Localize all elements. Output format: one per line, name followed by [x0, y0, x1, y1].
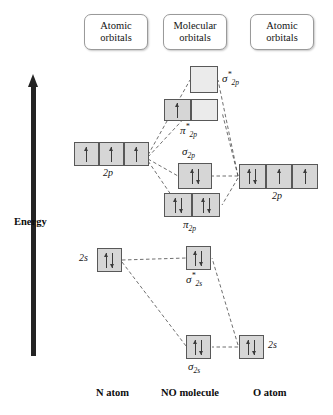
spin-slot-n-2p-c	[125, 143, 148, 165]
electron-arrow-up	[190, 169, 195, 184]
orbital-box-o-2p-b	[266, 164, 292, 189]
spin-slot-o-2s	[240, 336, 263, 358]
spin-slot-pi-2p-b	[193, 194, 219, 216]
electron-arrow-up	[303, 169, 308, 184]
header-left-atomic-orbitals: Atomic orbitals	[84, 14, 148, 50]
electron-arrow-up	[193, 251, 198, 266]
header-left-line1: Atomic	[100, 20, 132, 32]
orbital-box-o-2s	[239, 335, 264, 359]
spin-slot-n-2s	[98, 249, 121, 271]
electron-arrow-down	[252, 340, 257, 355]
electron-arrow-up	[277, 169, 282, 184]
label-sigma-star-2p: σ*2p	[222, 70, 239, 87]
electron-arrow-up	[247, 169, 252, 184]
electron-arrow-down	[199, 251, 204, 266]
footer-n-atom: N atom	[96, 387, 129, 398]
electron-arrow-down	[199, 340, 204, 355]
header-right-line2: orbitals	[266, 32, 298, 44]
header-left-line2: orbitals	[100, 32, 132, 44]
electron-arrow-down	[253, 169, 258, 184]
orbital-box-pi-2p-b	[192, 193, 220, 217]
spin-slot-pi-2p-a	[165, 194, 191, 216]
label-pi-star-2p: π*2p	[180, 122, 197, 139]
orbital-box-o-2p-c	[292, 164, 318, 189]
orbital-box-pi-2p-a	[164, 193, 192, 217]
electron-arrow-up	[201, 198, 206, 213]
spin-slot-sigma-2p	[179, 164, 211, 188]
label-o-2s: 2s	[268, 339, 277, 350]
label-o-2p: 2p	[272, 190, 282, 201]
spin-slot-n-2p-b	[100, 143, 123, 165]
header-mid-line1: Molecular	[173, 20, 216, 32]
label-pi-2p: π2p	[183, 218, 196, 233]
electron-arrow-up	[109, 147, 114, 162]
spin-slot-pi-star-2p-b	[192, 100, 217, 120]
footer-no-molecule: NO molecule	[161, 387, 219, 398]
spin-slot-n-2p-a	[75, 143, 98, 165]
orbital-box-sigma-2s	[186, 335, 211, 359]
spin-slot-o-2p-c	[293, 165, 317, 188]
electron-arrow-up	[84, 147, 89, 162]
electron-arrow-down	[196, 169, 201, 184]
spin-slot-sigma-2s	[187, 336, 210, 358]
electron-arrow-down	[207, 198, 212, 213]
label-n-2p: 2p	[103, 167, 113, 178]
spin-slot-o-2p-a	[240, 165, 265, 188]
header-right-line1: Atomic	[266, 20, 298, 32]
spin-slot-sigma-star-2s	[187, 247, 210, 269]
label-n-2s: 2s	[79, 252, 88, 263]
mo-diagram-canvas: Energy Atomic orbitals Molecular orbital…	[0, 0, 333, 415]
header-mid-line2: orbitals	[179, 32, 211, 44]
spin-slot-sigma-star-2p-1	[191, 67, 217, 92]
electron-arrow-up	[193, 340, 198, 355]
header-molecular-orbitals: Molecular orbitals	[163, 14, 227, 50]
label-sigma-2p: σ2p	[182, 145, 195, 160]
orbital-box-sigma-star-2s	[186, 246, 211, 270]
orbital-box-sigma-2p	[178, 163, 212, 189]
orbital-box-n-2p-a	[74, 142, 99, 166]
orbital-box-pi-star-2p-a	[164, 99, 191, 121]
electron-arrow-down	[179, 198, 184, 213]
orbital-box-o-2p-a	[239, 164, 266, 189]
label-sigma-2s: σ2s	[188, 360, 200, 375]
spin-slot-pi-star-2p-a	[165, 100, 190, 120]
header-right-atomic-orbitals: Atomic orbitals	[250, 14, 314, 50]
energy-axis-label: Energy	[14, 216, 47, 227]
orbital-box-n-2p-b	[99, 142, 124, 166]
electron-arrow-down	[110, 253, 115, 268]
orbital-box-n-2p-c	[124, 142, 149, 166]
orbital-box-sigma-star-2p	[190, 66, 218, 93]
electron-arrow-up	[173, 198, 178, 213]
electron-arrow-up	[246, 340, 251, 355]
orbital-box-pi-star-2p-b	[191, 99, 218, 121]
orbital-box-n-2s	[97, 248, 122, 272]
footer-o-atom: O atom	[253, 387, 287, 398]
electron-arrow-up	[175, 103, 180, 118]
label-sigma-star-2s: σ*2s	[186, 271, 202, 288]
electron-arrow-up	[104, 253, 109, 268]
energy-axis-arrow	[28, 74, 39, 356]
spin-slot-o-2p-b	[267, 165, 291, 188]
electron-arrow-up	[134, 147, 139, 162]
